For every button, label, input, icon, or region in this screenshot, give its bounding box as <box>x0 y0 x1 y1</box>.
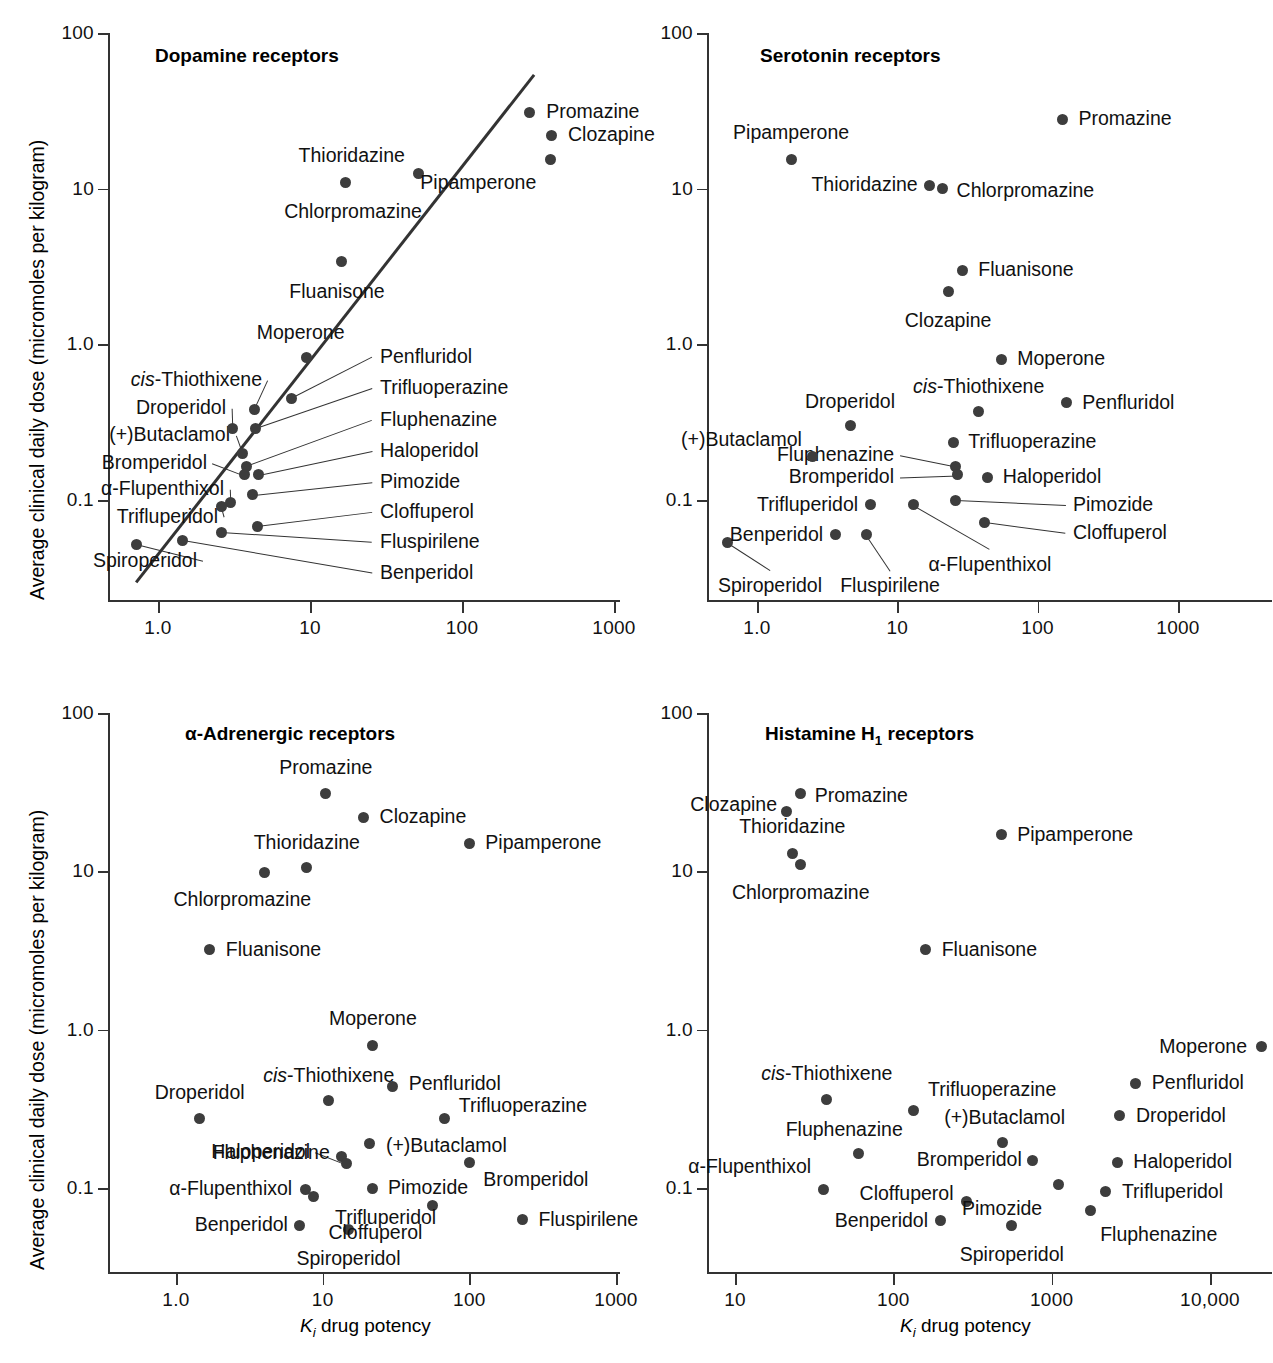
data-point-serotonin-13 <box>952 469 963 480</box>
data-point-dopamine-11 <box>237 448 248 459</box>
y-tick-serotonin-1 <box>697 189 707 191</box>
leader-label-dopamine-14: Spiroperidol <box>93 551 197 571</box>
x-tick-label-histamine-1: 100 <box>848 1289 938 1311</box>
data-point-histamine-20 <box>935 1215 946 1226</box>
data-point-dopamine-16 <box>225 497 236 508</box>
x-tick-serotonin-0 <box>757 601 759 613</box>
data-point-histamine-7 <box>1130 1078 1141 1089</box>
data-point-histamine-8 <box>821 1094 832 1105</box>
point-label-serotonin-14: Benperidol <box>730 525 823 545</box>
point-label-adrenergic-8: cis-Thiothixene <box>263 1066 394 1086</box>
point-label-adrenergic-6: Moperone <box>329 1009 417 1029</box>
point-label-histamine-5: Fluanisone <box>942 940 1037 960</box>
y-tick-label-histamine-0: 100 <box>635 702 693 724</box>
leader-line-serotonin-4 <box>913 505 990 550</box>
data-point-histamine-2 <box>787 848 798 859</box>
y-tick-serotonin-3 <box>697 500 707 502</box>
data-point-adrenergic-15 <box>367 1183 378 1194</box>
data-point-serotonin-7 <box>1061 397 1072 408</box>
data-point-dopamine-1 <box>546 130 557 141</box>
x-tick-histamine-1 <box>893 1273 895 1285</box>
data-point-adrenergic-5 <box>204 944 215 955</box>
x-tick-histamine-2 <box>1052 1273 1054 1285</box>
data-point-dopamine-15 <box>247 489 258 500</box>
x-tick-label-histamine-2: 1000 <box>1007 1289 1097 1311</box>
y-axis-line-dopamine <box>108 33 110 600</box>
y-tick-label-serotonin-3: 0.1 <box>635 489 693 511</box>
data-point-dopamine-19 <box>216 527 227 538</box>
point-label-adrenergic-5: Fluanisone <box>226 940 321 960</box>
point-label-serotonin-13: Trifluperidol <box>757 495 858 515</box>
data-point-dopamine-5 <box>336 256 347 267</box>
leader-line-serotonin-1 <box>900 475 958 479</box>
x-axis-line-histamine <box>707 1272 1272 1274</box>
leader-label-dopamine-5: Cloffuperol <box>380 502 474 522</box>
x-tick-histamine-0 <box>735 1273 737 1285</box>
leader-label-dopamine-2: Fluphenazine <box>380 410 497 430</box>
y-tick-label-dopamine-0: 100 <box>36 22 94 44</box>
leader-label-dopamine-4: Pimozide <box>380 472 460 492</box>
point-label-dopamine-0: Promazine <box>546 102 639 122</box>
data-point-histamine-15 <box>1053 1179 1064 1190</box>
data-point-histamine-14 <box>1112 1157 1123 1168</box>
y-tick-label-histamine-3: 0.1 <box>635 1177 693 1199</box>
x-tick-label-dopamine-1: 10 <box>265 617 355 639</box>
y-tick-dopamine-1 <box>98 189 108 191</box>
y-tick-histamine-2 <box>697 1030 707 1032</box>
leader-line-dopamine-5 <box>257 512 372 527</box>
y-tick-adrenergic-0 <box>98 713 108 715</box>
data-point-adrenergic-19 <box>517 1214 528 1225</box>
leader-line-dopamine-4 <box>253 482 372 496</box>
point-label-dopamine-2: Pipamperone <box>420 173 536 193</box>
data-point-serotonin-4 <box>957 265 968 276</box>
data-point-serotonin-3 <box>937 183 948 194</box>
data-point-serotonin-19 <box>830 529 841 540</box>
x-tick-dopamine-3 <box>614 601 616 613</box>
data-point-histamine-12 <box>853 1148 864 1159</box>
data-point-dopamine-18 <box>252 521 263 532</box>
data-point-histamine-0 <box>795 788 806 799</box>
point-label-adrenergic-14: Pimozide <box>388 1178 468 1198</box>
x-tick-label-adrenergic-3: 1000 <box>571 1289 661 1311</box>
leader-label-dopamine-0: Penfluridol <box>380 347 472 367</box>
panel-title-histamine: Histamine H1 receptors <box>765 723 974 748</box>
point-label-histamine-12: Fluphenazine <box>786 1120 903 1140</box>
leader-label-serotonin-5: Spiroperidol <box>718 576 822 596</box>
data-point-histamine-11 <box>997 1137 1008 1148</box>
y-tick-label-histamine-1: 10 <box>635 860 693 882</box>
x-tick-serotonin-1 <box>897 601 899 613</box>
data-point-serotonin-15 <box>950 495 961 506</box>
point-label-serotonin-9: Droperidol <box>805 392 895 412</box>
x-tick-label-adrenergic-1: 10 <box>278 1289 368 1311</box>
leader-line-serotonin-0 <box>900 455 956 468</box>
point-label-adrenergic-1: Clozapine <box>380 807 467 827</box>
data-point-dopamine-21 <box>131 539 142 550</box>
y-tick-adrenergic-3 <box>98 1188 108 1190</box>
x-tick-label-histamine-3: 10,000 <box>1165 1289 1255 1311</box>
x-tick-dopamine-0 <box>158 601 160 613</box>
x-tick-label-adrenergic-0: 1.0 <box>131 1289 221 1311</box>
leader-label-dopamine-3: Haloperidol <box>380 441 479 461</box>
point-label-histamine-8: cis-Thiothixene <box>761 1064 892 1084</box>
leader-line-serotonin-5 <box>727 543 770 571</box>
leader-line-serotonin-2 <box>956 500 1065 506</box>
panel-title-adrenergic: α-Adrenergic receptors <box>185 723 395 745</box>
data-point-serotonin-18 <box>979 517 990 528</box>
y-axis-title-0: Average clinical daily dose (micromoles … <box>26 140 49 600</box>
point-label-serotonin-7: Penfluridol <box>1082 393 1174 413</box>
leader-line-serotonin-3 <box>985 522 1065 534</box>
point-label-adrenergic-4: Chlorpromazine <box>173 890 311 910</box>
data-point-histamine-21 <box>1006 1220 1017 1231</box>
data-point-histamine-19 <box>1085 1205 1096 1216</box>
leader-label-dopamine-10: (+)Butaclamol <box>109 425 230 445</box>
x-tick-adrenergic-3 <box>616 1273 618 1285</box>
leader-label-dopamine-11: Bromperidol <box>102 453 207 473</box>
data-point-dopamine-17 <box>216 501 227 512</box>
data-point-histamine-3 <box>795 859 806 870</box>
point-label-adrenergic-17: Cloffuperol <box>328 1223 422 1243</box>
data-point-adrenergic-6 <box>367 1040 378 1051</box>
x-tick-histamine-3 <box>1210 1273 1212 1285</box>
figure-root: 100101.00.11.0101001000Dopamine receptor… <box>0 0 1273 1363</box>
data-point-adrenergic-1 <box>358 812 369 823</box>
y-tick-adrenergic-2 <box>98 1030 108 1032</box>
